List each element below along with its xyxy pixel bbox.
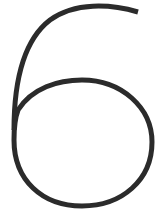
six-glyph-icon [0,0,162,219]
six-loop-stroke [14,80,152,206]
six-hook-stroke [14,6,138,130]
